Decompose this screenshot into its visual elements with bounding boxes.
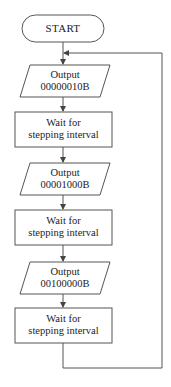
output-step-2-value: 00001000B: [20, 179, 110, 191]
output-step-2-text: Output 00001000B: [20, 167, 110, 191]
output-step-3-text: Output 00100000B: [20, 266, 110, 290]
output-step-1-text: Output 00000010B: [20, 69, 110, 93]
wait-step-2-line2: stepping interval: [15, 227, 112, 239]
wait-step-1-text: Wait for stepping interval: [15, 117, 112, 141]
output-step-2-title: Output: [20, 167, 110, 179]
output-step-1-title: Output: [20, 69, 110, 81]
output-step-3-title: Output: [20, 266, 110, 278]
wait-step-2-line1: Wait for: [15, 215, 112, 227]
output-step-1-value: 00000010B: [20, 81, 110, 93]
wait-step-3-line2: stepping interval: [15, 325, 112, 337]
wait-step-1-line2: stepping interval: [15, 129, 112, 141]
output-step-3-value: 00100000B: [20, 278, 110, 290]
wait-step-3-line1: Wait for: [15, 313, 112, 325]
start-label: START: [22, 22, 104, 34]
wait-step-3-text: Wait for stepping interval: [15, 313, 112, 337]
wait-step-1-line1: Wait for: [15, 117, 112, 129]
wait-step-2-text: Wait for stepping interval: [15, 215, 112, 239]
